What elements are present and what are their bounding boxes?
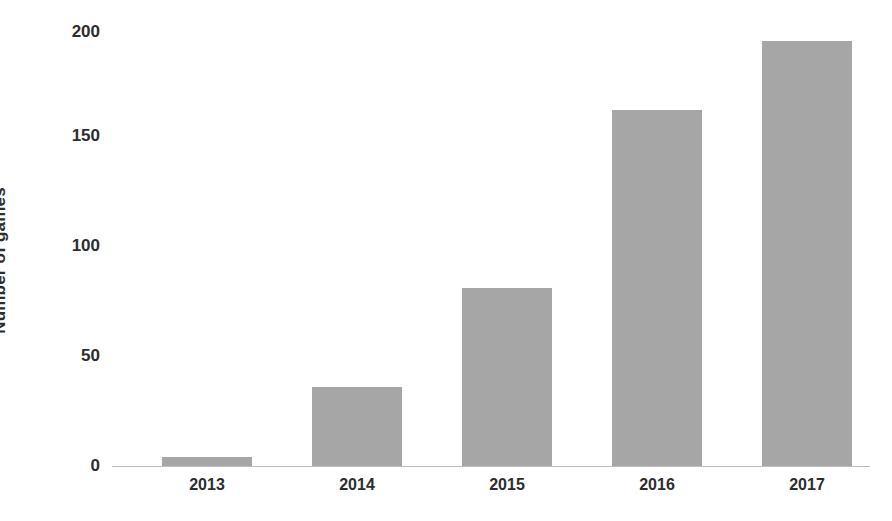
bar-2014 xyxy=(312,387,402,466)
y-tick-label-100: 100 xyxy=(40,236,100,256)
x-tick-label-2015: 2015 xyxy=(447,476,567,494)
bar-2016 xyxy=(612,110,702,466)
x-tick-label-2017: 2017 xyxy=(747,476,867,494)
x-tick-label-2016: 2016 xyxy=(597,476,717,494)
y-tick-label-50: 50 xyxy=(40,346,100,366)
x-axis-line xyxy=(112,466,870,467)
y-tick-label-200: 200 xyxy=(40,22,100,42)
bar-2013 xyxy=(162,457,252,466)
bar-chart: Number of games 0 50 100 150 200 2013 20… xyxy=(0,0,892,521)
y-tick-label-0: 0 xyxy=(40,456,100,476)
bar-2017 xyxy=(762,41,852,466)
bar-2015 xyxy=(462,288,552,466)
x-tick-label-2014: 2014 xyxy=(297,476,417,494)
y-axis-title: Number of games xyxy=(0,0,55,521)
plot-area: Number of games 0 50 100 150 200 2013 20… xyxy=(0,0,892,521)
x-tick-label-2013: 2013 xyxy=(147,476,267,494)
y-tick-label-150: 150 xyxy=(40,126,100,146)
